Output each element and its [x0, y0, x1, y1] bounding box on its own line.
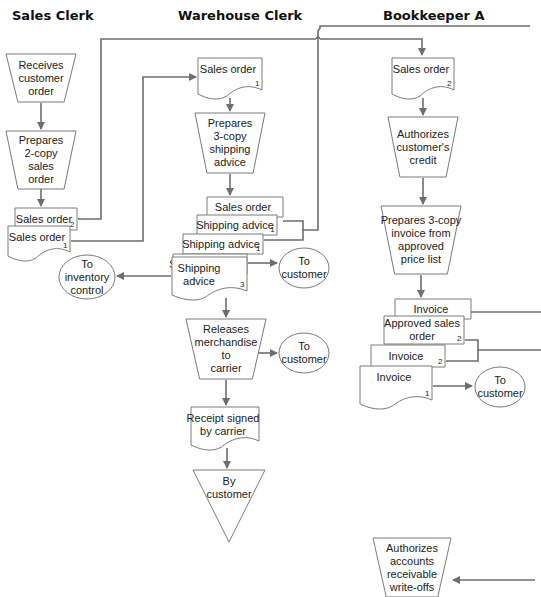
- label-line: customer: [281, 268, 327, 280]
- manual-operation-authorizes-customers-credit: Authorizescustomer'scredit: [388, 117, 458, 177]
- label-line: control: [70, 284, 103, 296]
- label-line: shipping: [210, 143, 251, 155]
- terminal-to-inventory-control: Toinventorycontrol: [59, 255, 115, 299]
- document-invoice-1: Invoice1: [360, 366, 432, 409]
- label-line: accounts: [390, 555, 435, 567]
- flowchart-canvas: Sales ClerkWarehouse ClerkBookkeeper A: [0, 0, 541, 597]
- document-label: Receipt signed: [187, 412, 260, 424]
- label-line: write-offs: [389, 581, 435, 593]
- label-line: order: [28, 85, 54, 97]
- copy-number: 1: [425, 389, 430, 398]
- label-line: Prepares: [19, 134, 64, 146]
- label-line: Prepares 3-copy: [381, 214, 462, 226]
- copy-number: 2: [447, 79, 452, 88]
- document-approved-sales-order-2: Approved salesorder2: [384, 316, 464, 344]
- invoice-2-bracket: [446, 350, 478, 361]
- copy-number: 2: [457, 334, 462, 343]
- label-line: invoice from: [391, 227, 450, 239]
- lane-title: Sales Clerk: [12, 8, 94, 23]
- manual-operation-prepares-3-copy-invoice: Prepares 3-copyinvoice fromapprovedprice…: [381, 206, 462, 274]
- sales-order-1-to-warehouse-arrow: [71, 77, 196, 241]
- document-label: Sales order: [200, 63, 257, 75]
- label-line: customer: [477, 387, 523, 399]
- copy-number: 1: [270, 225, 275, 234]
- label-line: 3-copy: [213, 130, 247, 142]
- manual-operation-authorizes-ar-write-offs: Authorizesaccountsreceivablewrite-offs: [373, 538, 451, 597]
- stack-bracket-a: [283, 221, 318, 230]
- label-line: receivable: [387, 568, 437, 580]
- copy-number: 1: [63, 241, 68, 250]
- label-line: 2-copy: [24, 147, 58, 159]
- sales-order-flowchart: Sales ClerkWarehouse ClerkBookkeeper A: [0, 0, 541, 597]
- document-sales-order-3-warehouse: Sales order: [207, 197, 283, 217]
- terminal-to-customer-invoice: Tocustomer: [475, 367, 525, 407]
- label-line: merchandise: [195, 336, 258, 348]
- label-line: advice: [214, 156, 246, 168]
- label-line: inventory: [65, 271, 110, 283]
- label-line: Authorizes: [397, 128, 449, 140]
- document-sales-order-2-bookkeeper: Sales order2: [392, 58, 454, 99]
- document-label: Approved sales: [384, 317, 460, 329]
- lane-title: Warehouse Clerk: [178, 8, 303, 23]
- label-line: Receives: [18, 59, 64, 71]
- label-line: sales: [28, 160, 54, 172]
- label-line: order: [28, 173, 54, 185]
- document-label: Shipping: [178, 262, 221, 274]
- label-line: Prepares: [208, 117, 253, 129]
- label-line: To: [298, 255, 310, 267]
- terminal-to-customer-release: Tocustomer: [279, 333, 329, 373]
- manual-operation-receives-customer-order: Receivescustomerorder: [6, 54, 76, 102]
- label-line: Authorizes: [386, 542, 438, 554]
- document-shipping-advice-1b: Shipping advice1: [182, 234, 263, 254]
- document-label: order: [409, 330, 435, 342]
- copy-number: 1: [255, 79, 260, 88]
- label-line: To: [494, 374, 506, 386]
- label-line: approved: [398, 240, 444, 252]
- document-label: Invoice: [377, 371, 412, 383]
- document-invoice-2: Invoice2: [371, 345, 445, 367]
- document-label: Shipping advice: [182, 238, 260, 250]
- terminal-to-customer-shipping: Tocustomer: [279, 248, 329, 288]
- sales-order-2-route-a: [78, 39, 316, 219]
- label-line: customer: [18, 72, 64, 84]
- document-label: advice: [183, 275, 215, 287]
- document-shipping-advice-1a: Shipping advice1: [196, 215, 277, 235]
- copy-number: 2: [70, 220, 75, 229]
- document-shipping-advice-3: Shippingadvice3: [172, 257, 247, 300]
- label-line: price list: [401, 253, 441, 265]
- label-line: customer's: [397, 141, 450, 153]
- label-line: customer: [281, 353, 327, 365]
- approved-order-out-line: [465, 340, 541, 350]
- copy-number: 2: [438, 357, 443, 366]
- off-page-files: Bycustomer: [193, 470, 265, 542]
- document-label: by carrier: [200, 425, 246, 437]
- label-line: To: [298, 340, 310, 352]
- manual-operation-prepares-3-copy-shipping-advice: Prepares3-copyshippingadvice: [195, 113, 265, 173]
- label-line: credit: [410, 154, 437, 166]
- label-line: to: [221, 349, 230, 361]
- document-sales-order-1-warehouse: Sales order1: [198, 58, 262, 99]
- document-label: Sales order: [16, 213, 73, 225]
- document-label: Sales order: [393, 63, 450, 75]
- file-by-customer-file: Bycustomer: [193, 470, 265, 542]
- document-label: Invoice: [389, 350, 424, 362]
- label-line: carrier: [210, 362, 242, 374]
- label-line: By: [223, 475, 236, 487]
- copy-number: 1: [256, 244, 261, 253]
- manual-operation-releases-merchandise-to-carrier: Releasesmerchandisetocarrier: [186, 319, 266, 379]
- sales-order-2-to-bookkeeper-arrow: [320, 39, 422, 55]
- label-line: customer: [206, 488, 252, 500]
- document-label: Sales order: [9, 231, 66, 243]
- document-label: Shipping advice: [196, 219, 274, 231]
- label-line: To: [81, 258, 93, 270]
- manual-operation-prepares-2-copy-sales-order: Prepares2-copysalesorder: [6, 131, 76, 189]
- lane-titles: Sales ClerkWarehouse ClerkBookkeeper A: [12, 8, 484, 23]
- copy-number: 3: [240, 280, 245, 289]
- document-label: Invoice: [414, 303, 449, 315]
- label-line: Releases: [203, 323, 249, 335]
- document-label: Sales order: [215, 201, 272, 213]
- lane-title: Bookkeeper A: [383, 8, 484, 23]
- document-sales-order-1-sales-clerk: Sales order1: [8, 226, 70, 261]
- document-receipt-signed-by-carrier: Receipt signedby carrier: [187, 407, 260, 450]
